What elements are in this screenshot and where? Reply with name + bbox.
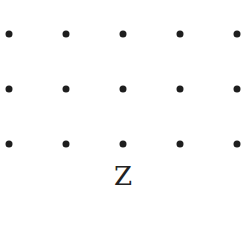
lattice-point [177, 86, 184, 93]
lattice-point [234, 141, 241, 148]
lattice-point [63, 31, 70, 38]
lattice-point [63, 86, 70, 93]
lattice-point [177, 141, 184, 148]
lattice-point [63, 141, 70, 148]
lattice-point [6, 141, 13, 148]
lattice-point [120, 31, 127, 38]
lattice-point [234, 31, 241, 38]
lattice-point [120, 86, 127, 93]
lattice-point [6, 31, 13, 38]
lattice-point [120, 141, 127, 148]
lattice-label: Z [114, 163, 132, 189]
lattice-point [177, 31, 184, 38]
lattice-point [6, 86, 13, 93]
lattice-point [234, 86, 241, 93]
